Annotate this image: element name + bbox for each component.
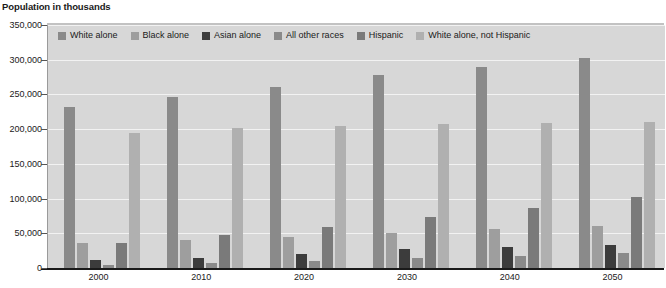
gridline (48, 164, 665, 165)
bar-white-alone-not-hispanic-2050 (644, 122, 655, 268)
y-axis-tick (41, 233, 47, 234)
bar-white-alone-2050 (579, 58, 590, 268)
y-axis-tick (41, 199, 47, 200)
bar-hispanic-2040 (528, 208, 539, 268)
bar-asian-alone-2050 (605, 245, 616, 268)
bar-black-alone-2000 (77, 243, 88, 268)
bar-hispanic-2010 (219, 235, 230, 268)
x-axis-tick-label: 2000 (48, 272, 148, 282)
gridline (48, 129, 665, 130)
legend-swatch-icon (274, 32, 282, 40)
bar-white-alone-not-hispanic-2040 (541, 123, 552, 268)
bar-black-alone-2050 (592, 226, 603, 268)
bar-black-alone-2030 (386, 233, 397, 268)
gridline (48, 233, 665, 234)
legend-item-white-alone[interactable]: White alone (58, 31, 118, 40)
bar-hispanic-2000 (116, 243, 127, 268)
chart-container: Population in thousands 350,000300,00025… (0, 0, 666, 288)
bar-asian-alone-2020 (296, 254, 307, 268)
legend-swatch-icon (58, 32, 66, 40)
y-axis-tick-label: 0 (0, 263, 42, 273)
x-axis-tick-label: 2040 (460, 272, 560, 282)
bar-white-alone-2020 (270, 87, 281, 268)
legend-swatch-icon (416, 32, 424, 40)
bar-white-alone-2010 (167, 97, 178, 268)
bar-all-other-races-2030 (412, 258, 423, 268)
x-axis-line (41, 268, 664, 270)
x-axis-tick-label: 2020 (254, 272, 354, 282)
bar-all-other-races-2050 (618, 253, 629, 268)
bar-all-other-races-2020 (309, 261, 320, 268)
gridline (48, 25, 665, 26)
bar-asian-alone-2030 (399, 249, 410, 268)
y-axis-tick-label: 250,000 (0, 89, 42, 99)
bar-white-alone-2030 (373, 75, 384, 268)
legend-label: White alone (70, 31, 118, 40)
y-axis-tick-label: 200,000 (0, 124, 42, 134)
gridline (48, 199, 665, 200)
legend-label: All other races (286, 31, 344, 40)
legend-item-all-other-races[interactable]: All other races (274, 31, 344, 40)
bar-white-alone-not-hispanic-2000 (129, 133, 140, 268)
legend: White aloneBlack aloneAsian aloneAll oth… (58, 31, 543, 40)
y-axis-tick (41, 268, 47, 269)
bar-white-alone-not-hispanic-2020 (335, 126, 346, 268)
plot-area (47, 25, 665, 268)
bar-black-alone-2020 (283, 237, 294, 268)
bar-black-alone-2040 (489, 229, 500, 268)
gridline (48, 94, 665, 95)
y-axis-tick (41, 60, 47, 61)
bar-hispanic-2020 (322, 227, 333, 268)
y-axis-tick-label: 50,000 (0, 228, 42, 238)
bar-white-alone-not-hispanic-2010 (232, 128, 243, 268)
legend-item-hispanic[interactable]: Hispanic (357, 31, 404, 40)
legend-item-black-alone[interactable]: Black alone (131, 31, 190, 40)
bar-asian-alone-2040 (502, 247, 513, 268)
legend-label: White alone, not Hispanic (428, 31, 530, 40)
bar-white-alone-2040 (476, 67, 487, 268)
legend-label: Hispanic (369, 31, 404, 40)
y-axis-tick (41, 94, 47, 95)
y-axis-tick (41, 25, 47, 26)
y-axis-tick-label: 300,000 (0, 55, 42, 65)
legend-label: Asian alone (214, 31, 261, 40)
bar-black-alone-2010 (180, 240, 191, 268)
x-axis-tick-label: 2010 (151, 272, 251, 282)
x-axis-tick-label: 2050 (563, 272, 663, 282)
x-axis-tick-label: 2030 (357, 272, 457, 282)
legend-item-white-alone-not-hispanic[interactable]: White alone, not Hispanic (416, 31, 530, 40)
page-title: Population in thousands (2, 1, 111, 12)
bar-asian-alone-2010 (193, 258, 204, 268)
bar-all-other-races-2040 (515, 256, 526, 268)
y-axis-tick-label: 350,000 (0, 20, 42, 30)
bar-white-alone-not-hispanic-2030 (438, 124, 449, 268)
y-axis-tick-label: 150,000 (0, 159, 42, 169)
gridline (48, 60, 665, 61)
legend-label: Black alone (143, 31, 190, 40)
bar-hispanic-2050 (631, 197, 642, 268)
y-axis-tick-label: 100,000 (0, 194, 42, 204)
bar-asian-alone-2000 (90, 260, 101, 268)
legend-swatch-icon (131, 32, 139, 40)
bar-white-alone-2000 (64, 107, 75, 268)
y-axis-tick (41, 164, 47, 165)
legend-item-asian-alone[interactable]: Asian alone (202, 31, 261, 40)
y-axis-tick (41, 129, 47, 130)
legend-swatch-icon (202, 32, 210, 40)
bar-hispanic-2030 (425, 217, 436, 268)
legend-swatch-icon (357, 32, 365, 40)
